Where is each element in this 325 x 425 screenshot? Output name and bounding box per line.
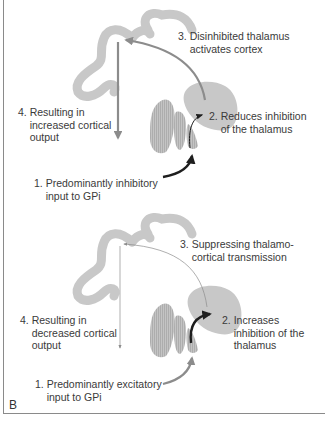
bottom-step4-label: 4. Resulting in decreased cortical outpu…	[20, 314, 117, 352]
top-step4-label: 4. Resulting in increased cortical outpu…	[18, 106, 111, 144]
top-step3-label: 3. Disinhibited thalamus activates corte…	[178, 30, 289, 55]
bottom-step1-label: 1. Predominantly excitatory input to GPi	[35, 378, 162, 403]
arrow-input-to-gpi-bottom	[163, 358, 192, 384]
panel-label: B	[9, 398, 17, 412]
top-step1-label: 1. Predominantly inhibitory input to GPi	[34, 177, 158, 202]
cortex-gyrus-bottom	[77, 217, 192, 300]
basal-ganglia-diagram	[0, 0, 325, 425]
bottom-step2-label: 2. Increases inhibition of the thalamus	[222, 314, 304, 352]
bottom-step3-label: 3. Suppressing thalamo- cortical transmi…	[180, 238, 294, 263]
arrow-input-to-gpi-top	[163, 156, 192, 177]
top-step2-label: 2. Reduces inhibition of the thalamus	[209, 110, 306, 135]
